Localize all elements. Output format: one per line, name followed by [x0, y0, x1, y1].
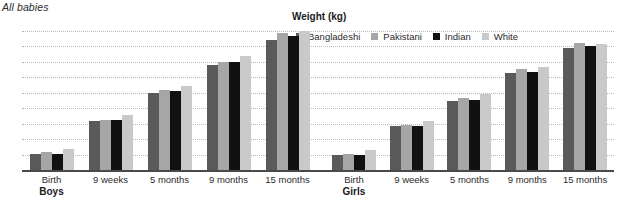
bar — [447, 101, 458, 171]
x-axis-group-label: 9 weeks — [81, 174, 140, 204]
bar — [480, 94, 491, 170]
bar — [277, 33, 288, 170]
bar — [170, 91, 181, 170]
chart-root: All babies Weight (kg) BangladeshiPakist… — [0, 0, 621, 209]
x-axis-age-label: 9 weeks — [81, 174, 140, 185]
bar — [596, 44, 607, 170]
bar-group — [140, 31, 199, 170]
x-axis-age-label: 9 weeks — [383, 174, 441, 185]
x-panel-gap — [317, 174, 325, 204]
x-axis-group-label: 15 months — [258, 174, 317, 204]
bar — [365, 150, 376, 170]
x-axis-age-label: 5 months — [140, 174, 199, 185]
bar — [299, 31, 310, 170]
bar-group — [22, 31, 81, 170]
bar — [30, 154, 41, 170]
bar — [574, 43, 585, 170]
x-axis-group-label: BirthGirls — [325, 174, 383, 204]
bar — [89, 121, 100, 170]
bar — [343, 154, 354, 170]
x-axis-age-label: 15 months — [556, 174, 614, 185]
bar — [469, 100, 480, 170]
plot-area: 111098765432 — [22, 31, 614, 172]
bar — [458, 98, 469, 170]
bar — [122, 115, 133, 170]
x-axis-group-label: 15 months — [556, 174, 614, 204]
bar — [288, 36, 299, 170]
panel-title-boys: Boys — [22, 186, 81, 197]
bar — [354, 155, 365, 170]
x-panel-boys: BirthBoys9 weeks5 months9 months15 month… — [22, 174, 317, 204]
bar — [240, 56, 251, 170]
bar-groups — [22, 31, 614, 170]
bar — [207, 65, 218, 170]
panel-girls — [325, 31, 614, 170]
bar-group — [498, 31, 556, 170]
x-axis-labels: BirthBoys9 weeks5 months9 months15 month… — [22, 174, 614, 204]
bar — [181, 86, 192, 170]
x-axis-group-label: 5 months — [441, 174, 499, 204]
x-axis-group-label: 9 months — [199, 174, 258, 204]
bar — [41, 152, 52, 170]
panel-boys — [22, 31, 317, 170]
x-axis-age-label: 15 months — [258, 174, 317, 185]
bar — [332, 155, 343, 170]
bar — [423, 121, 434, 170]
bar — [505, 73, 516, 170]
bar — [266, 40, 277, 170]
x-axis-group-label: 5 months — [140, 174, 199, 204]
x-axis-age-label: 5 months — [441, 174, 499, 185]
bar — [63, 149, 74, 170]
bar — [401, 125, 412, 170]
bar — [111, 120, 122, 170]
bar — [585, 46, 596, 170]
bar — [218, 62, 229, 170]
bar — [516, 69, 527, 170]
bar-group — [199, 31, 258, 170]
bar-group — [81, 31, 140, 170]
x-axis-age-label: 9 months — [498, 174, 556, 185]
bar-group — [441, 31, 499, 170]
x-axis-age-label: 9 months — [199, 174, 258, 185]
bar — [229, 62, 240, 170]
chart-title: Weight (kg) — [292, 11, 346, 22]
x-axis-age-label: Birth — [22, 174, 81, 185]
bar — [52, 154, 63, 170]
bar — [159, 90, 170, 170]
bar-group — [556, 31, 614, 170]
x-panel-girls: BirthGirls9 weeks5 months9 months15 mont… — [325, 174, 614, 204]
bar — [527, 72, 538, 170]
x-axis-group-label: 9 weeks — [383, 174, 441, 204]
chart-caption: All babies — [2, 1, 49, 13]
bar — [563, 48, 574, 170]
bar — [100, 120, 111, 170]
x-axis-age-label: Birth — [325, 174, 383, 185]
bar — [538, 67, 549, 170]
x-axis-line — [22, 170, 614, 172]
panel-gap — [317, 31, 325, 170]
bar-group — [383, 31, 441, 170]
x-axis-group-label: 9 months — [498, 174, 556, 204]
bar — [148, 93, 159, 170]
bar — [390, 126, 401, 170]
bar — [412, 126, 423, 170]
panel-title-girls: Girls — [325, 186, 383, 197]
bar-group — [325, 31, 383, 170]
bar-group — [258, 31, 317, 170]
x-axis-group-label: BirthBoys — [22, 174, 81, 204]
